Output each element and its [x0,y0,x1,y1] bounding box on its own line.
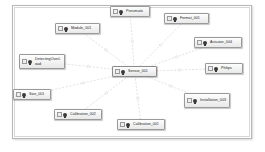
diagram-node-pneumatic[interactable]: Pneumatic [110,6,150,17]
edge-midpoint-marker[interactable] [131,40,134,43]
node-element-icon [64,26,69,31]
diagram-node-philips[interactable]: Philips [205,63,243,74]
node-label: Pneumatic [126,9,147,13]
node-handle-icon [57,112,62,117]
node-element-icon [173,16,178,21]
edge-midpoint-marker[interactable] [105,49,108,52]
node-handle-icon [120,122,125,127]
node-label: Module_001 [71,26,97,30]
node-label: Calibration_001 [133,122,162,126]
node-element-icon [63,112,68,117]
edge-midpoint-marker[interactable] [82,82,85,85]
node-element-icon [193,98,198,103]
diagram-canvas: Sensor_001PneumaticFormat_001Module_001A… [0,0,265,152]
diagram-node-installation[interactable]: Installation_003 [184,93,230,108]
node-label: Calibration_002 [70,112,99,116]
diagram-node-calibration1[interactable]: Calibration_001 [117,119,165,130]
node-label: DetectingOverLoad [35,57,62,65]
node-handle-icon [187,98,192,103]
edge-midpoint-marker[interactable] [178,69,181,72]
diagram-node-format[interactable]: Format_001 [164,13,209,24]
diagram-node-module[interactable]: Module_001 [55,23,100,34]
node-label: Format_001 [180,16,206,20]
node-handle-icon [115,69,120,74]
diagram-node-actuator[interactable]: Actuator_004 [194,37,242,48]
edge-midpoint-marker[interactable] [159,44,162,47]
node-handle-icon [113,9,118,14]
node-element-icon [214,66,219,71]
node-handle-icon [167,16,172,21]
node-handle-icon [22,59,27,64]
node-label: Sensor_001 [128,69,154,73]
node-handle-icon [16,92,21,97]
node-element-icon [22,92,27,97]
node-element-icon [121,69,126,74]
node-element-icon [126,122,131,127]
diagram-node-calibration2[interactable]: Calibration_002 [54,109,102,120]
edge-midpoint-marker[interactable] [136,97,139,100]
node-element-icon [28,59,33,64]
diagram-node-size[interactable]: Size_001 [13,89,51,100]
node-element-icon [119,9,124,14]
node-label: Installation_003 [200,98,227,102]
node-label: Actuator_004 [210,40,239,44]
node-label: Size_001 [29,92,48,96]
edge-midpoint-marker[interactable] [105,92,108,95]
node-handle-icon [208,66,213,71]
node-handle-icon [58,26,63,31]
diagram-node-sensor[interactable]: Sensor_001 [112,66,157,77]
edge-midpoint-marker[interactable] [87,65,90,68]
edge-midpoint-marker[interactable] [175,56,178,59]
node-label: Philips [221,66,240,70]
node-element-icon [203,40,208,45]
edge-midpoint-marker[interactable] [169,85,172,88]
diagram-node-detecting[interactable]: DetectingOverLoad [19,54,65,69]
node-handle-icon [197,40,202,45]
